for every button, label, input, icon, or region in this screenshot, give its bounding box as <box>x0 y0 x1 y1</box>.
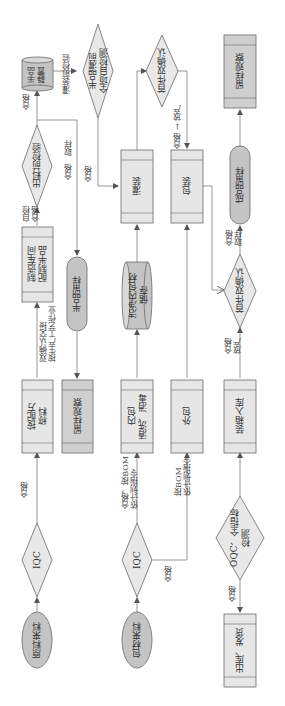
label-sample-observe-1: 留样观察 <box>62 390 93 443</box>
label-oqc: OQC、全指标 检测 <box>222 508 258 568</box>
edge-label-discharge-pass-sample: 合格 取样 <box>64 140 73 180</box>
label-filling: 灌装 <box>121 160 153 213</box>
label-iqc-raw: IQC <box>27 545 47 575</box>
label-clean-inner-storage: 洁净内包材 储存 <box>127 264 149 327</box>
label-pack-material-in: 包材来料 <box>122 612 152 668</box>
label-semi-sample: 半品留样 <box>67 260 87 328</box>
edge-filling-to-first1 <box>137 71 146 150</box>
label-ship-out: 出库、发货 <box>224 624 256 677</box>
label-first-piece-confirm-2: 首件双确认 <box>230 264 250 318</box>
edge-packaging-to-first2 <box>203 186 224 290</box>
label-first-piece-confirm-1: 首件双确认 <box>152 44 172 98</box>
edge-label-first2-pass-release: 合格 放产 <box>224 338 242 354</box>
edge-label-discharge-to-rest: 合格 <box>22 94 31 110</box>
edge-label-rest-to-test: 灌装前检验 <box>62 54 71 94</box>
edge-label-oqc-pass: 合格 <box>228 586 237 602</box>
label-raw-material-in: 原料来料 <box>22 612 52 668</box>
edge-label-first2-pass-sample: 合格 取样 <box>225 230 243 246</box>
label-finished-sample: 成品留样 <box>230 150 250 220</box>
label-pre-discharge-inspect: 出料前检验 <box>27 138 47 194</box>
label-semi-full-test: 半品灌前 全项目检测 <box>86 44 110 98</box>
label-outer-pack: 外包 <box>171 390 203 443</box>
edge-label-pack-iqc-pass: 合格 <box>164 566 173 582</box>
label-weigh-by-formula: 按配方 称料 <box>22 390 53 443</box>
edge-label-weigh-to-prep: 双确认交接 按生产工艺作业 <box>39 306 57 362</box>
edge-label-first1-pass-release: 合格 → 放产 <box>173 105 182 149</box>
label-packaging: 包装 <box>171 160 203 213</box>
label-iqc-pack: IQC <box>127 545 147 575</box>
label-workshop-prep: 制造车间 配制半品 <box>22 237 53 292</box>
edge-test-to-filling <box>98 118 118 186</box>
label-box-warehouse: 装箱入库 <box>224 390 256 443</box>
edge-label-prep-self-check: 自检 合格 <box>22 206 40 222</box>
edge-label-test-to-filling: 合格 <box>84 166 93 182</box>
edge-label-outer-bom: 按BOM 依计划指令 <box>174 456 192 496</box>
label-semi-rest: 半品 静置 <box>22 62 53 88</box>
label-inner-pack-clean: 内包 清洗、消毒 <box>121 390 153 443</box>
edge-label-raw-iqc-pass: 合格 <box>20 482 29 498</box>
edge-label-pack-iqc-pass-inner: 合格，按BOM 依计划指令 <box>121 456 139 509</box>
label-sample-observe-2: 留样观察 <box>224 45 256 98</box>
